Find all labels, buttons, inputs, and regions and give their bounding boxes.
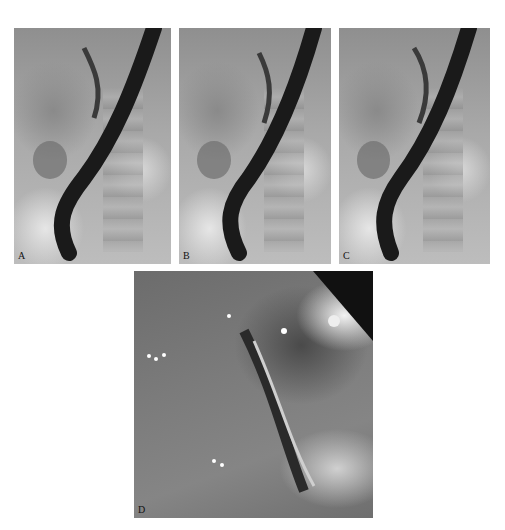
endoscope-image [179, 28, 331, 264]
panel-d-endoscopy: D [134, 271, 373, 518]
panel-label-d: D [138, 504, 145, 515]
panel-label-c: C [343, 250, 350, 261]
endoscope-image [14, 28, 171, 264]
endoscopic-view [134, 271, 373, 518]
panel-label-b: B [183, 250, 190, 261]
panel-b-fluoroscopy: B [179, 28, 331, 264]
panel-a-fluoroscopy: A [14, 28, 171, 264]
panel-c-fluoroscopy: C [339, 28, 490, 264]
panel-label-a: A [18, 250, 25, 261]
endoscope-image [339, 28, 490, 264]
